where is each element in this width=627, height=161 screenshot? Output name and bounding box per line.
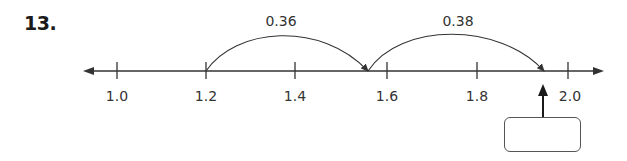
up-arrow-icon [538, 84, 548, 96]
answer-box[interactable] [504, 117, 581, 152]
tick-1-6: 1.6 [376, 62, 398, 104]
tick-label: 1.2 [195, 88, 217, 104]
jump-label: 0.38 [442, 13, 473, 29]
tick-label: 1.8 [466, 88, 488, 104]
right-arrow-icon [593, 67, 604, 75]
tick-label: 1.6 [376, 88, 398, 104]
tick-label: 1.0 [106, 88, 128, 104]
jump-arc-2: 0.38 [368, 13, 544, 71]
jump-arc-1: 0.36 [206, 13, 368, 71]
left-arrow-icon [83, 67, 94, 75]
tick-1-2: 1.2 [195, 62, 217, 104]
tick-1-8: 1.8 [466, 62, 488, 104]
tick-1-0: 1.0 [106, 62, 128, 104]
number-line-axis [83, 67, 604, 75]
answer-pointer-arrow [538, 84, 548, 117]
tick-1-4: 1.4 [284, 62, 306, 104]
tick-label: 1.4 [284, 88, 306, 104]
tick-2-0: 2.0 [559, 62, 581, 104]
tick-label: 2.0 [559, 88, 581, 104]
jump-label: 0.36 [265, 13, 296, 29]
